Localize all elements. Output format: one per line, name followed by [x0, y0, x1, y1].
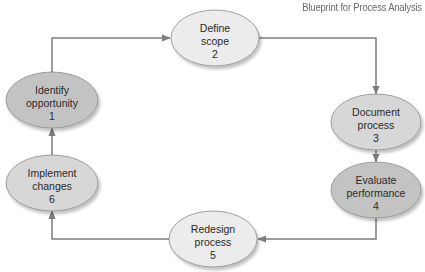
step-node-3: Documentprocess3 [331, 94, 421, 150]
step-label-line1: Define [200, 22, 231, 34]
step-label-line1: Identify [35, 84, 70, 96]
step-label-line2: changes [32, 180, 72, 192]
connector-arrow-4-to-5 [258, 218, 376, 239]
connector-arrow-1-to-2 [52, 38, 170, 72]
connector-arrow-2-to-3 [259, 38, 376, 94]
process-cycle-diagram: Identifyopportunity1Definescope2Document… [0, 0, 425, 272]
step-label-line2: process [195, 236, 232, 248]
connector-arrow-5-to-6 [52, 211, 169, 239]
step-label-line2: performance [347, 187, 406, 199]
step-label-line1: Implement [27, 167, 76, 179]
step-label-line1: Document [352, 106, 400, 118]
step-label-line2: opportunity [26, 97, 79, 109]
step-node-1: Identifyopportunity1 [6, 72, 98, 128]
step-number: 4 [373, 200, 379, 212]
step-node-5: Redesignprocess5 [169, 211, 257, 267]
step-node-2: Definescope2 [171, 10, 259, 66]
step-label-line2: scope [201, 35, 229, 47]
step-label-line2: process [358, 119, 395, 131]
step-number: 5 [210, 249, 216, 261]
step-label-line1: Redesign [191, 223, 236, 235]
step-node-4: Evaluateperformance4 [331, 162, 421, 218]
step-number: 6 [49, 193, 55, 205]
step-number: 2 [212, 48, 218, 60]
step-number: 1 [49, 110, 55, 122]
step-number: 3 [373, 132, 379, 144]
step-node-6: Implementchanges6 [6, 155, 98, 211]
step-label-line1: Evaluate [356, 174, 397, 186]
